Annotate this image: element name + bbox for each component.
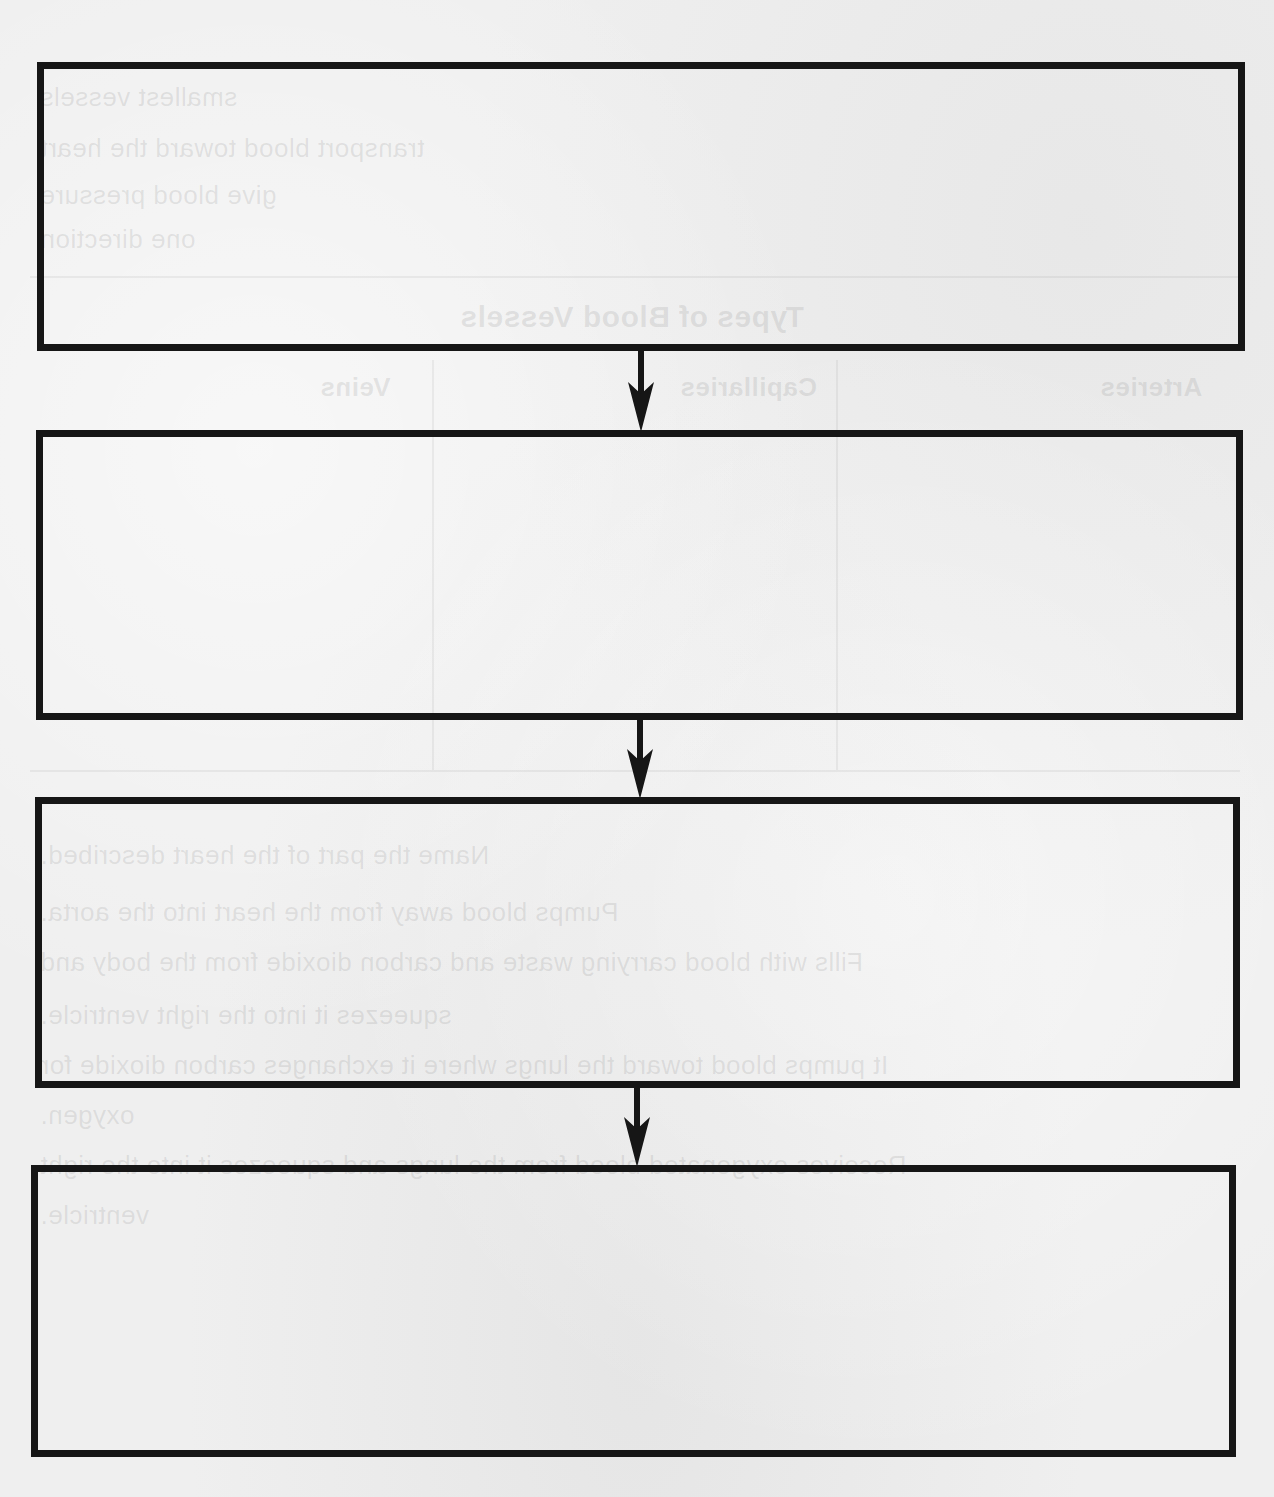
down-arrow-1 — [626, 348, 656, 432]
ghost-text: Arteries — [1100, 372, 1202, 403]
ghost-text: Capillaries — [680, 372, 817, 403]
down-arrow-2 — [625, 717, 655, 799]
flowchart-box-4 — [31, 1165, 1236, 1457]
arrow-down-icon — [622, 1085, 652, 1167]
flowchart-box-1 — [37, 62, 1245, 351]
ghost-text: oxygen. — [40, 1100, 135, 1131]
down-arrow-3 — [622, 1085, 652, 1167]
arrow-down-icon — [626, 348, 656, 432]
arrow-down-icon — [625, 717, 655, 799]
flowchart-box-3 — [35, 797, 1240, 1088]
flowchart-box-2 — [36, 430, 1243, 720]
ghost-text: Veins — [320, 372, 390, 403]
